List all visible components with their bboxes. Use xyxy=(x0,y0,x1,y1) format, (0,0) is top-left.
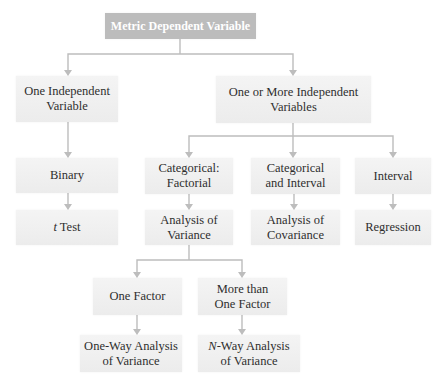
node-t-test: t Test xyxy=(16,210,118,245)
node-categorical-and-interval: Categorical and Interval xyxy=(251,158,340,194)
node-one-factor: One Factor xyxy=(93,278,182,315)
node-metric-dependent-variable: Metric Dependent Variable xyxy=(105,13,256,39)
node-binary: Binary xyxy=(16,158,118,193)
node-one-or-more-independent-variables: One or More Independent Variables xyxy=(216,76,371,123)
connector-lines xyxy=(0,0,441,390)
node-interval: Interval xyxy=(355,158,431,194)
node-categorical-factorial: Categorical: Factorial xyxy=(145,158,233,194)
node-analysis-of-variance: Analysis of Variance xyxy=(145,210,233,245)
node-regression: Regression xyxy=(355,210,431,245)
node-more-than-one-factor: More than One Factor xyxy=(198,278,287,315)
node-one-way-analysis-of-variance: One-Way Analysis of Variance xyxy=(80,335,182,372)
node-one-independent-variable: One Independent Variable xyxy=(16,76,118,122)
node-analysis-of-covariance: Analysis of Covariance xyxy=(251,210,340,245)
node-n-way-analysis-of-variance: N-Way Analysis of Variance xyxy=(198,335,300,372)
